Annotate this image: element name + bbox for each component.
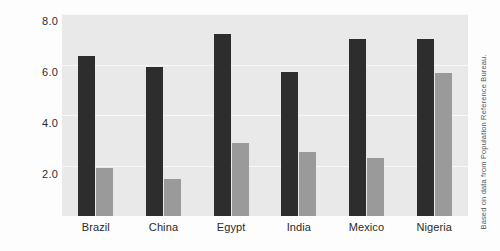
y-tick-label: 4.0 [24, 118, 58, 129]
bar-dark [146, 67, 163, 216]
y-tick-label: 2.0 [24, 169, 58, 180]
x-tick-label: Mexico [333, 220, 401, 234]
bar-group [62, 14, 130, 216]
y-tick-label: 8.0 [24, 16, 58, 27]
bar-dark [281, 72, 298, 216]
bar-light [232, 143, 249, 216]
x-tick-label: China [130, 220, 198, 234]
y-tick-label: 6.0 [24, 67, 58, 78]
y-axis-title: Total fertility rate [2, 0, 18, 46]
bar-dark [78, 56, 95, 216]
bar-group [333, 14, 401, 216]
bar-light [435, 73, 452, 216]
chart-figure: Total fertility rate 2.0 4.0 6.0 8.0 Bra… [0, 0, 500, 251]
bar-dark [417, 39, 434, 216]
x-tick-label: Brazil [62, 220, 130, 234]
bar-light [299, 152, 316, 216]
bar-dark [214, 34, 231, 216]
y-axis-tick-labels: 2.0 4.0 6.0 8.0 [22, 0, 58, 251]
bar-group [130, 14, 198, 216]
bar-group [265, 14, 333, 216]
bar-light [164, 179, 181, 216]
bar-light [96, 168, 113, 216]
x-tick-label: India [265, 220, 333, 234]
source-attribution: Based on data from Population Reference … [479, 16, 488, 230]
bar-light [367, 158, 384, 216]
x-tick-label: Nigeria [400, 220, 468, 234]
bar-dark [349, 39, 366, 216]
bar-group [197, 14, 265, 216]
bar-group [400, 14, 468, 216]
plot-area [62, 14, 468, 216]
x-tick-label: Egypt [197, 220, 265, 234]
x-axis-tick-labels: BrazilChinaEgyptIndiaMexicoNigeria [62, 220, 468, 240]
